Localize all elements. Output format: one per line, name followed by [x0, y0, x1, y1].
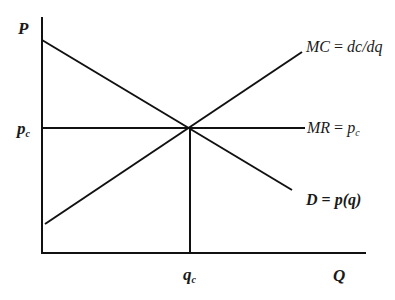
d-equals: = — [322, 191, 331, 208]
marginal-cost-label: MC = dc/dq — [305, 38, 383, 56]
demand-label: D = p(q) — [305, 191, 361, 209]
mc-lhs: MC — [305, 38, 330, 55]
y-axis-label: P — [17, 19, 29, 38]
price-tick-label: pc — [15, 119, 31, 139]
d-rhs: p(q) — [333, 191, 362, 209]
price-tick-sub: c — [26, 128, 31, 139]
mr-lhs: MR — [306, 119, 330, 136]
d-lhs: D — [305, 191, 318, 208]
marginal-revenue-label: MR = pc — [306, 119, 360, 138]
mc-rhs: dc/dq — [347, 38, 383, 56]
quantity-tick-label: qc — [183, 265, 197, 285]
quantity-tick-sub: c — [192, 274, 197, 285]
marginal-cost-curve — [45, 52, 302, 224]
mr-rhs-sub: c — [355, 127, 360, 138]
mr-equals: = — [334, 119, 343, 136]
demand-curve — [42, 40, 292, 190]
diagram-canvas: P Q pc qc MC = dc/dq MR = pc D = p(q) — [0, 0, 395, 300]
x-axis-label: Q — [333, 266, 345, 285]
mr-rhs-base: p — [346, 119, 355, 137]
price-tick-base: p — [15, 119, 26, 138]
mc-equals: = — [334, 38, 343, 55]
